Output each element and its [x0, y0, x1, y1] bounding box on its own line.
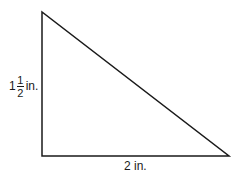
fraction-denominator: 2: [17, 88, 23, 98]
base-label: 2 in.: [124, 159, 147, 173]
height-fraction: 1 2: [17, 75, 24, 98]
height-unit: in.: [26, 79, 39, 93]
height-label: 1 1 2 in.: [9, 75, 38, 97]
height-whole: 1: [9, 79, 16, 93]
fraction-numerator: 1: [17, 75, 23, 85]
triangle-outline: [42, 12, 229, 156]
